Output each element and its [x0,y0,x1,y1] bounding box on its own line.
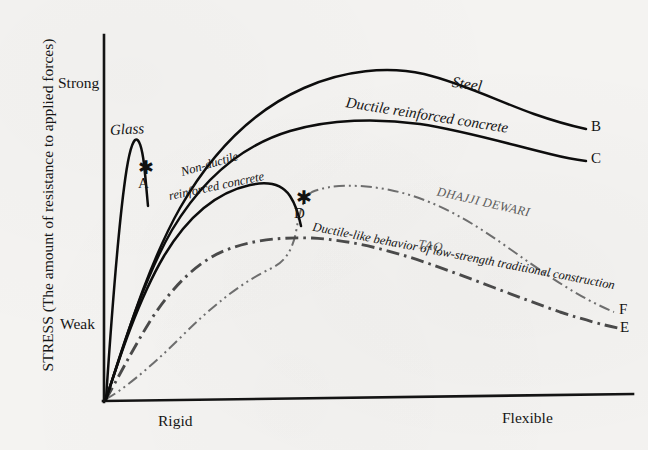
x-label-flexible: Flexible [502,410,553,426]
y-label-strong: Strong [58,75,99,91]
point-label-b: B [591,119,601,134]
curve-label-glass: Glass [110,121,145,138]
y-axis-title: STRESS (The amount of resistance to appl… [39,0,57,415]
point-label-e: E [620,320,629,335]
x-label-rigid: Rigid [158,413,192,429]
curve-label-steel: Steel [451,74,483,94]
figure-canvas: STRESS (The amount of resistance to appl… [0,0,648,450]
x-axis-line [103,394,633,401]
point-label-c: C [591,151,601,166]
curve-non-ductile-reinforced-concrete [106,183,301,399]
curve-taq [106,238,618,399]
point-label-d: D [294,206,305,221]
point-label-a: A [138,176,149,191]
point-label-f: F [619,302,627,317]
curve-dhajji-dewari [106,186,614,399]
y-label-weak: Weak [60,316,95,332]
